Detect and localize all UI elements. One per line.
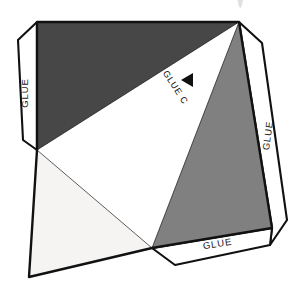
faint-top-mark — [238, 0, 244, 9]
glue-tab-left-label: GLUE — [19, 78, 30, 107]
papercraft-canvas: GLUE GLUE GLUE GLUE C — [0, 0, 303, 290]
net-diagram: GLUE GLUE GLUE GLUE C — [0, 0, 303, 290]
